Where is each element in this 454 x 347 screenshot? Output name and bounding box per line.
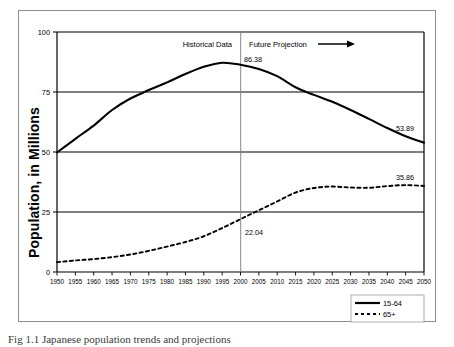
figure-container: Population, in Millions 100 75 50 25 [0,0,454,347]
data-label-53-89: 53.89 [396,124,414,133]
x-tick-label: 2010 [270,278,285,285]
x-tick-label: 1995 [215,278,230,285]
data-label-35-86: 35.86 [396,173,414,182]
x-tick-label: 1950 [50,278,65,285]
x-tick-label: 1985 [178,278,193,285]
y-tick-label: 0 [46,268,50,277]
y-axis-tick-labels: 100 75 50 25 0 [38,28,50,277]
x-tick-label: 2025 [325,278,340,285]
x-tick-label: 2050 [417,278,432,285]
x-tick-label: 2045 [399,278,414,285]
x-tick-label: 1960 [87,278,102,285]
x-axis-tick-marks [57,272,424,276]
y-tick-label: 100 [38,28,50,37]
x-tick-label: 1970 [123,278,138,285]
legend-label-15-64[interactable]: 15-64 [383,299,402,308]
annotation-future-projection: Future Projection [249,40,307,49]
population-line-chart: 100 75 50 25 0 1950195519601965197019751… [0,0,454,347]
x-tick-label: 2015 [289,278,304,285]
figure-caption: Fig 1.1 Japanese population trends and p… [8,333,448,345]
annotation-historical-data: Historical Data [183,40,233,49]
x-tick-label: 1975 [142,278,157,285]
x-tick-label: 2005 [252,278,267,285]
x-tick-label: 1990 [197,278,212,285]
data-label-86-38: 86.38 [244,55,262,64]
x-tick-label: 2000 [233,278,248,285]
x-axis-tick-labels: 1950195519601965197019751980198519901995… [50,278,432,285]
x-tick-label: 2020 [307,278,322,285]
legend-label-65-plus[interactable]: 65+ [383,310,396,319]
x-tick-label: 2035 [362,278,377,285]
x-tick-label: 2040 [380,278,395,285]
y-tick-label: 25 [42,208,50,217]
y-tick-label: 50 [42,148,50,157]
chart-legend: 15-64 65+ [351,295,424,322]
x-tick-label: 1965 [105,278,120,285]
x-tick-label: 1955 [68,278,83,285]
x-tick-label: 1980 [160,278,175,285]
y-tick-label: 75 [42,88,50,97]
data-label-22-04: 22.04 [245,228,263,237]
x-tick-label: 2030 [344,278,359,285]
